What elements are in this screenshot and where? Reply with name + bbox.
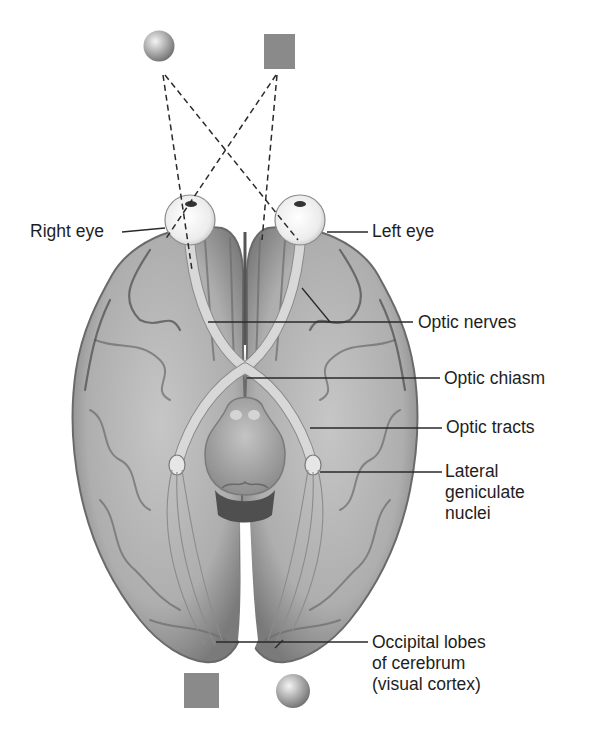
label-right-eye: Right eye (30, 221, 104, 242)
label-optic-tracts: Optic tracts (446, 417, 535, 438)
stimulus-square-bottom (184, 673, 219, 708)
label-optic-chiasm: Optic chiasm (444, 368, 545, 389)
label-left-eye: Left eye (372, 221, 434, 242)
left-eye-pupil (294, 201, 306, 207)
stimulus-square-top (264, 34, 295, 69)
stimulus-sphere-bottom (276, 674, 310, 708)
brain (73, 227, 418, 662)
label-optic-nerves: Optic nerves (418, 312, 516, 333)
label-occipital-lobes: Occipital lobes of cerebrum (visual cort… (372, 632, 486, 695)
top-stimuli (144, 31, 296, 70)
bottom-stimuli (184, 673, 310, 708)
label-lateral-geniculate-nuclei: Lateral geniculate nuclei (445, 461, 525, 524)
stimulus-sphere-top (144, 31, 175, 62)
